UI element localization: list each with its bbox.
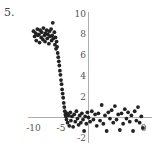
data-point bbox=[130, 114, 134, 118]
data-point bbox=[86, 110, 90, 114]
data-point bbox=[49, 27, 53, 31]
data-point bbox=[62, 101, 66, 105]
data-point bbox=[59, 78, 63, 82]
data-point bbox=[116, 112, 120, 116]
data-point bbox=[68, 110, 72, 114]
data-point bbox=[83, 115, 87, 119]
data-point bbox=[56, 51, 60, 55]
data-point bbox=[62, 105, 66, 109]
data-point bbox=[42, 26, 46, 30]
data-point bbox=[47, 42, 51, 46]
data-point bbox=[125, 117, 129, 121]
data-point bbox=[82, 129, 86, 133]
scatter-plot: 108642-2-10-50 bbox=[0, 0, 159, 164]
data-point bbox=[59, 73, 63, 77]
data-point bbox=[133, 109, 137, 113]
data-point bbox=[128, 120, 132, 124]
y-tick-label: 10 bbox=[75, 9, 87, 19]
data-point bbox=[139, 115, 143, 119]
data-point bbox=[105, 129, 109, 133]
data-point bbox=[93, 112, 97, 116]
data-point bbox=[100, 103, 104, 107]
data-point bbox=[38, 41, 42, 45]
data-point bbox=[118, 128, 122, 132]
data-point bbox=[98, 119, 102, 123]
y-tick-label: 8 bbox=[80, 29, 86, 39]
data-point bbox=[126, 110, 130, 114]
data-point bbox=[121, 122, 125, 126]
data-point bbox=[111, 121, 115, 125]
data-point bbox=[123, 107, 127, 111]
data-point bbox=[51, 21, 55, 25]
data-point bbox=[57, 64, 61, 68]
data-point bbox=[108, 117, 112, 121]
data-point bbox=[88, 120, 92, 124]
data-point bbox=[120, 111, 124, 115]
data-point bbox=[58, 69, 62, 73]
data-point bbox=[92, 118, 96, 122]
data-point bbox=[79, 121, 83, 125]
data-point bbox=[95, 124, 99, 128]
x-tick-label: -10 bbox=[26, 123, 41, 133]
data-point bbox=[80, 111, 84, 115]
y-tick-label: -2 bbox=[77, 133, 86, 143]
data-point bbox=[73, 120, 77, 124]
y-tick-label: 4 bbox=[80, 71, 86, 81]
data-point bbox=[115, 118, 119, 122]
y-tick-label: 2 bbox=[80, 92, 86, 102]
data-point bbox=[61, 92, 65, 96]
data-point bbox=[60, 82, 64, 86]
data-point bbox=[97, 111, 101, 115]
data-point bbox=[101, 122, 105, 126]
data-point bbox=[90, 109, 94, 113]
data-point bbox=[61, 96, 65, 100]
data-point bbox=[55, 40, 59, 44]
data-point bbox=[134, 119, 138, 123]
data-point bbox=[40, 30, 44, 34]
x-tick-label: -5 bbox=[57, 123, 66, 133]
data-point bbox=[34, 39, 38, 43]
y-tick-label: 6 bbox=[80, 50, 86, 60]
data-point bbox=[69, 119, 73, 123]
data-point bbox=[131, 129, 135, 133]
data-point bbox=[113, 104, 117, 108]
data-point bbox=[75, 109, 79, 113]
data-point bbox=[57, 59, 61, 63]
data-point bbox=[87, 116, 91, 120]
data-point bbox=[110, 108, 114, 112]
data-point bbox=[43, 40, 47, 44]
data-point bbox=[138, 121, 142, 125]
data-point bbox=[71, 125, 75, 129]
data-point bbox=[54, 36, 58, 40]
data-point bbox=[81, 118, 85, 122]
data-point bbox=[56, 55, 60, 59]
data-point bbox=[136, 105, 140, 109]
data-point bbox=[76, 117, 80, 121]
data-point bbox=[67, 124, 71, 128]
data-point bbox=[72, 112, 76, 116]
data-point bbox=[106, 110, 110, 114]
data-point bbox=[141, 126, 145, 130]
data-point bbox=[84, 122, 88, 126]
data-point bbox=[53, 30, 57, 34]
data-point bbox=[55, 45, 59, 49]
data-point bbox=[60, 88, 64, 92]
data-point bbox=[103, 114, 107, 118]
